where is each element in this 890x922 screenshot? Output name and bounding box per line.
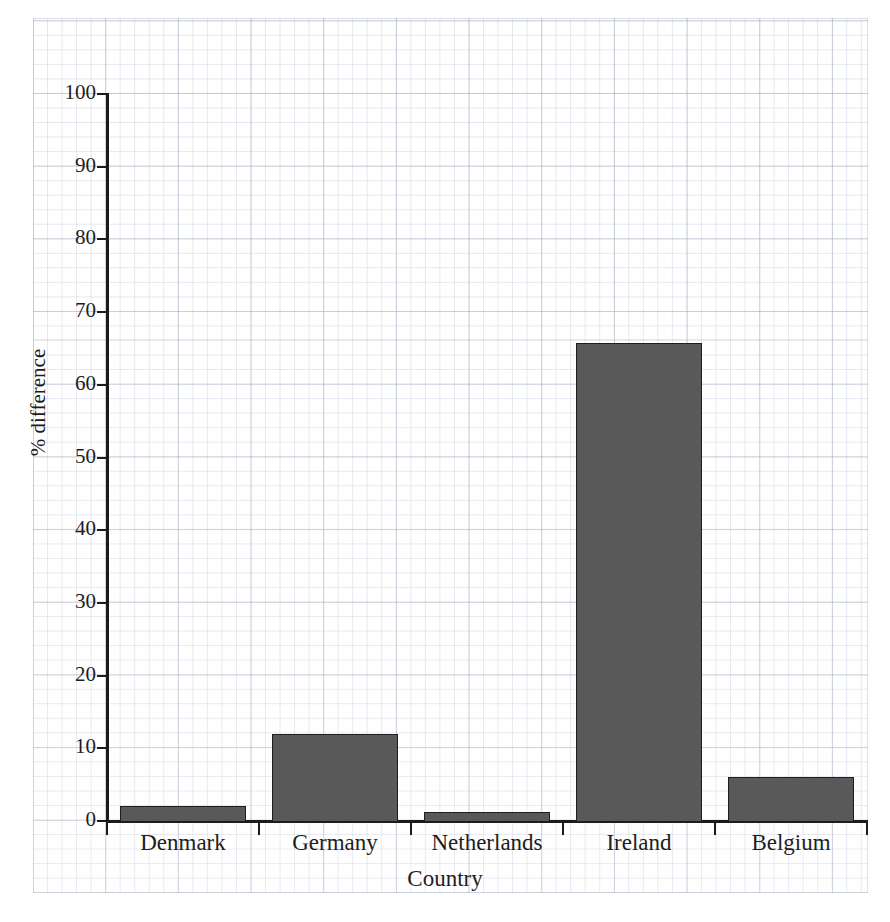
x-category-label-netherlands: Netherlands	[411, 830, 563, 855]
y-tick-label-20: 20	[34, 664, 96, 685]
y-tick-40	[97, 529, 107, 531]
y-tick-label-80: 80	[34, 227, 96, 248]
x-axis-title: Country	[0, 866, 890, 892]
y-tick-70	[97, 311, 107, 313]
y-tick-60	[97, 384, 107, 386]
x-category-label-germany: Germany	[259, 830, 411, 855]
y-tick-90	[97, 166, 107, 168]
bar-belgium	[728, 777, 854, 822]
x-category-label-denmark: Denmark	[107, 830, 259, 855]
bar-denmark	[120, 806, 246, 822]
y-tick-label-90: 90	[34, 155, 96, 176]
y-tick-label-100: 100	[34, 82, 96, 103]
bar-netherlands	[424, 812, 550, 822]
y-tick-10	[97, 747, 107, 749]
y-tick-30	[97, 602, 107, 604]
bar-ireland	[576, 343, 702, 822]
y-tick-100	[97, 93, 107, 95]
bar-chart-plot: 0102030405060708090100 DenmarkGermanyNet…	[0, 0, 890, 922]
y-tick-20	[97, 675, 107, 677]
y-tick-80	[97, 238, 107, 240]
y-axis-title: % difference	[26, 303, 51, 503]
y-tick-label-10: 10	[34, 736, 96, 757]
y-tick-label-40: 40	[34, 518, 96, 539]
y-tick-label-0: 0	[34, 809, 96, 830]
y-tick-label-30: 30	[34, 591, 96, 612]
bar-germany	[272, 734, 398, 822]
x-category-label-belgium: Belgium	[715, 830, 867, 855]
y-tick-50	[97, 457, 107, 459]
x-category-label-ireland: Ireland	[563, 830, 715, 855]
